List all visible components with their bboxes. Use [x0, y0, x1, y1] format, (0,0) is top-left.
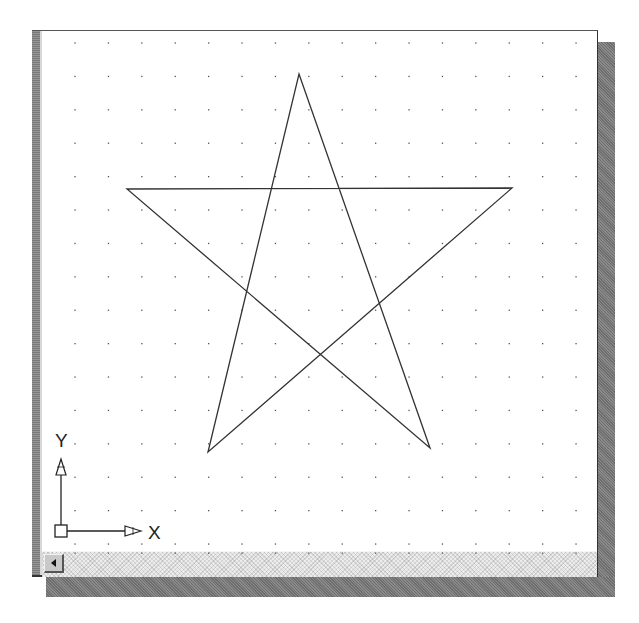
grid-dot [74, 376, 75, 377]
grid-dot [509, 410, 510, 411]
grid-dot [308, 543, 309, 544]
grid-dot [342, 343, 343, 344]
grid-dot [241, 553, 242, 554]
grid-dot [408, 376, 409, 377]
grid-dot [542, 376, 543, 377]
grid-dot [208, 543, 209, 544]
grid-dot [575, 443, 576, 444]
grid-dot [241, 443, 242, 444]
grid-dot [175, 543, 176, 544]
grid-dot [575, 109, 576, 110]
grid-dot [375, 109, 376, 110]
grid-dot [108, 443, 109, 444]
grid-dot [108, 543, 109, 544]
grid-dot [475, 109, 476, 110]
grid-dot [375, 443, 376, 444]
grid-dot [342, 42, 343, 43]
grid-dot [475, 76, 476, 77]
grid-dot [408, 76, 409, 77]
grid-dot [375, 143, 376, 144]
grid-dot [208, 410, 209, 411]
grid-dot [74, 310, 75, 311]
grid-dot [375, 343, 376, 344]
grid-dot [475, 553, 476, 554]
grid-dot [208, 243, 209, 244]
grid-dot [509, 343, 510, 344]
grid-dot [408, 209, 409, 210]
grid-dot [108, 477, 109, 478]
grid-dot [141, 209, 142, 210]
grid-dot [108, 410, 109, 411]
grid-dot [275, 209, 276, 210]
grid-dot [275, 343, 276, 344]
grid-dot [475, 376, 476, 377]
grid-dot [509, 176, 510, 177]
grid-dot [208, 176, 209, 177]
grid-dot [408, 510, 409, 511]
grid-dot [342, 276, 343, 277]
grid-dot [408, 343, 409, 344]
grid-dot [575, 76, 576, 77]
grid-dot [408, 243, 409, 244]
clipped-caption-text [0, 0, 639, 2]
grid-dot [475, 42, 476, 43]
grid-dot [208, 553, 209, 554]
grid-dot [175, 343, 176, 344]
grid-dot [442, 510, 443, 511]
grid-dot [408, 553, 409, 554]
grid-dots-bottom-row [42, 552, 597, 558]
grid-dot [241, 42, 242, 43]
grid-dot [108, 109, 109, 110]
grid-dot [442, 553, 443, 554]
grid-dot [141, 376, 142, 377]
grid-dot [108, 42, 109, 43]
grid-dot [74, 76, 75, 77]
grid-dot [342, 209, 343, 210]
grid-dot [308, 477, 309, 478]
grid-dot [342, 410, 343, 411]
grid-dot [442, 477, 443, 478]
grid-dot [575, 209, 576, 210]
grid-dot [342, 553, 343, 554]
grid-dot [509, 443, 510, 444]
grid-dot [241, 376, 242, 377]
grid-dot [208, 310, 209, 311]
grid-dot [108, 76, 109, 77]
grid-dot [74, 410, 75, 411]
grid-dot [175, 42, 176, 43]
grid-dot [308, 109, 309, 110]
grid-dot [175, 143, 176, 144]
grid-dot [241, 143, 242, 144]
drawing-canvas[interactable]: X Y [42, 31, 597, 551]
grid-dot [575, 553, 576, 554]
grid-dot [442, 76, 443, 77]
grid-dot [208, 109, 209, 110]
grid-dot [308, 176, 309, 177]
grid-dot [241, 276, 242, 277]
grid-dot [475, 310, 476, 311]
grid-dot [375, 553, 376, 554]
grid-dot [442, 410, 443, 411]
grid-dot [175, 176, 176, 177]
grid-dot [308, 209, 309, 210]
grid-dot [308, 410, 309, 411]
star-polyline[interactable] [127, 74, 512, 452]
grid-dot [342, 76, 343, 77]
grid-dot [442, 176, 443, 177]
grid-dot [475, 410, 476, 411]
grid-dot [509, 310, 510, 311]
grid-dot [175, 443, 176, 444]
grid-dot [475, 176, 476, 177]
grid-dot [509, 543, 510, 544]
grid-dot [475, 443, 476, 444]
grid-dot [308, 42, 309, 43]
grid-dot [275, 410, 276, 411]
grid-dot [108, 510, 109, 511]
drawing-svg[interactable]: X Y [42, 31, 597, 551]
grid-dot [208, 42, 209, 43]
grid-dot [241, 343, 242, 344]
horizontal-scrollbar[interactable] [42, 551, 597, 577]
grid-dot [141, 410, 142, 411]
grid-dot [375, 76, 376, 77]
grid-dot [74, 109, 75, 110]
